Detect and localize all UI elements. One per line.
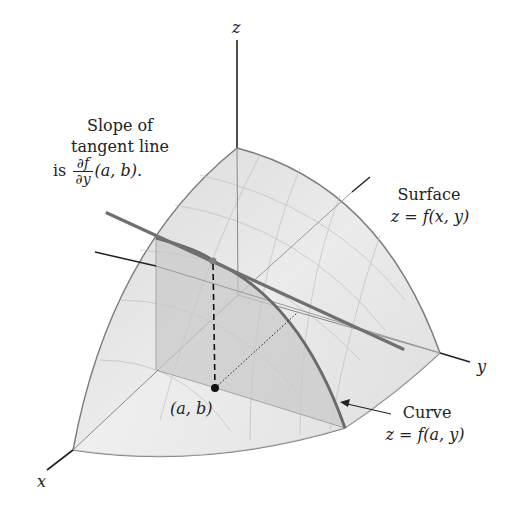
z-axis-label: z [232,18,240,37]
surface-label-line1: Surface [384,185,474,204]
slope-suffix: (a, b). [95,161,143,180]
curve-label-line2: z = f(a, y) [369,425,481,444]
slope-prefix: is [53,161,66,180]
slope-label-line3: is ∂f ∂y (a, b). [53,156,142,187]
x-axis-label: x [37,472,46,491]
point-a-b-label: (a, b) [170,399,212,418]
x-axis [47,450,73,470]
y-axis-through-top [352,177,370,192]
fraction-numerator: ∂f [73,156,92,172]
surface-label-line2: z = f(x, y) [376,207,484,226]
y-axis [440,353,470,362]
slope-label-line1: Slope of [60,116,180,135]
y-axis-label: y [477,357,486,376]
curve-label-line1: Curve [392,403,462,422]
partial-derivative-fraction: ∂f ∂y [73,156,92,187]
point-a-b [211,384,219,392]
tangent-point [210,258,217,265]
fraction-denominator: ∂y [73,172,92,187]
slope-label-line2: tangent line [50,137,190,156]
